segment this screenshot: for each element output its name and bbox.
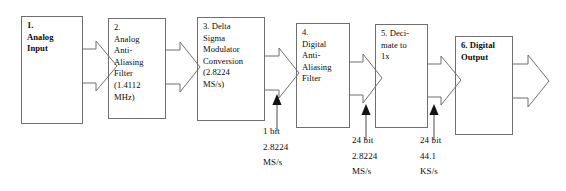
analog-input-block[interactable]: 1. Analog Input [21,16,83,124]
digital-output-label: 6. Digital Output [461,40,512,63]
digital-output-block[interactable]: 6. Digital Output [455,36,513,135]
delta-sigma-modulator-label: 3. Delta Sigma Modulator Conversion (2.8… [203,21,264,91]
signal-annotation-1bit: 1 bit 2.8224 MS/s [263,124,288,171]
delta-sigma-modulator-block[interactable]: 3. Delta Sigma Modulator Conversion (2.8… [197,17,265,121]
block-diagram: 1. Analog Input 2. Analog Anti- Aliasing… [0,0,566,191]
flow-arrow-output [513,55,549,107]
analog-anti-aliasing-filter-block[interactable]: 2. Analog Anti- Aliasing Filter (1.4112 … [108,18,166,119]
decimate-block[interactable]: 5. Deci- mate to 1x [375,24,428,128]
digital-anti-aliasing-filter-block[interactable]: 4. Digital Anti- Aliasing Filter [296,23,350,128]
analog-input-label: 1. Analog Input [27,20,82,55]
analog-anti-aliasing-filter-label: 2. Analog Anti- Aliasing Filter (1.4112 … [114,22,165,103]
decimate-label: 5. Deci- mate to 1x [381,28,427,63]
digital-anti-aliasing-filter-label: 4. Digital Anti- Aliasing Filter [302,27,349,85]
signal-annotation-24bit-441: 24 bit 44.1 KS/s [420,133,441,180]
flow-arrow-3-to-4 [265,48,299,98]
signal-annotation-24bit-28224: 24 bit 2.8224 MS/s [352,133,377,180]
flow-arrow-2-to-3 [166,42,200,92]
